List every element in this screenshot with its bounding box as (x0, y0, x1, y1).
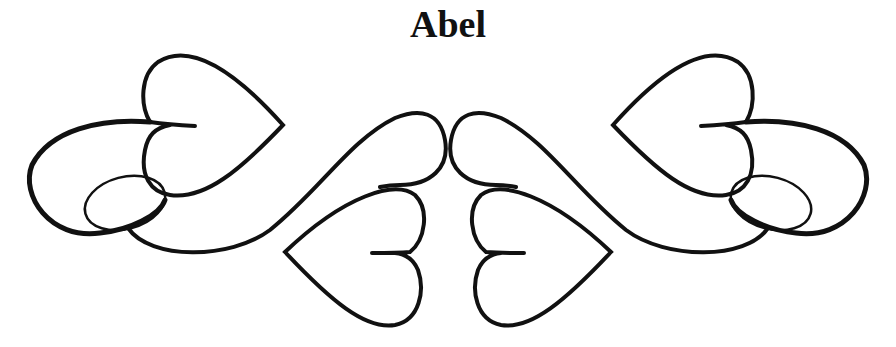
right-half-flourish (450, 56, 866, 326)
heart-flourish-ornament (0, 0, 896, 347)
left-half-flourish (29, 56, 445, 326)
